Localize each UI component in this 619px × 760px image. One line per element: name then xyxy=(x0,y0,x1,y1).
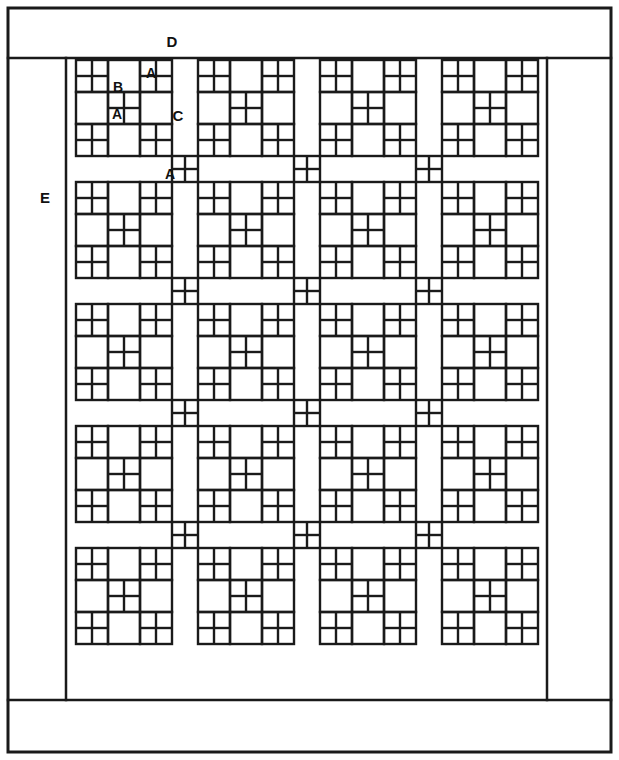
label-d: D xyxy=(167,33,178,50)
label-a-sash: A xyxy=(165,166,175,182)
quilt-diagram-stage: DEBAACA xyxy=(0,0,619,760)
label-e: E xyxy=(40,189,50,206)
quilt-pattern-diagram: DEBAACA xyxy=(0,0,619,760)
label-a-top: A xyxy=(146,65,156,81)
label-b-top: B xyxy=(113,79,123,95)
label-a-mid: A xyxy=(112,106,122,122)
label-c: C xyxy=(173,107,184,124)
